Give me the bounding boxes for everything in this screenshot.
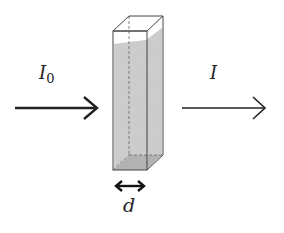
liquid-sample: [114, 28, 162, 170]
intensity-subscript: 0: [46, 71, 54, 86]
path-length-symbol: d: [123, 194, 135, 216]
path-length-arrow: [116, 181, 144, 191]
path-length-label: d: [123, 196, 135, 215]
beer-lambert-diagram: I0 I d: [0, 0, 284, 233]
diagram-canvas: [0, 0, 284, 233]
incident-intensity-label: I0: [39, 64, 54, 85]
cuvette: [113, 16, 163, 170]
transmitted-intensity-label: I: [210, 64, 217, 82]
incident-light-arrow: [15, 97, 97, 119]
intensity-symbol: I: [210, 62, 217, 83]
transmitted-light-arrow: [182, 97, 265, 119]
